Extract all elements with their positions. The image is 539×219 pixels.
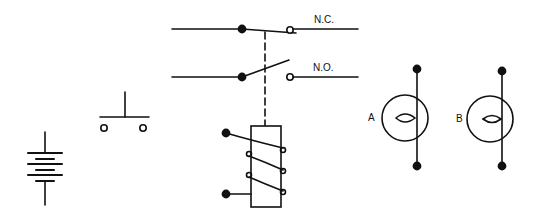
lamp-b-symbol xyxy=(467,67,513,169)
relay-contacts-symbol xyxy=(172,25,358,126)
lamp-b-label: B xyxy=(456,114,463,124)
battery-symbol xyxy=(28,132,62,205)
no-label: N.O. xyxy=(313,63,334,73)
push-button-symbol xyxy=(100,92,149,131)
nc-label: N.C. xyxy=(314,15,334,25)
lamp-a-label: A xyxy=(368,113,375,123)
schematic-canvas xyxy=(0,0,539,219)
relay-coil-symbol xyxy=(222,126,285,207)
lamp-a-symbol xyxy=(382,65,428,169)
